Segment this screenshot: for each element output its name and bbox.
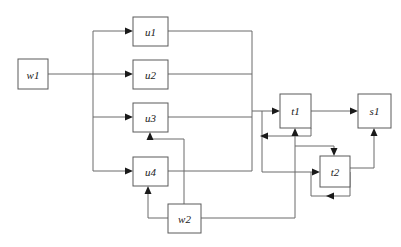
node-t1[interactable]: t1 <box>280 94 311 128</box>
edge-w2-t1 <box>201 132 295 218</box>
node-u1-label: u1 <box>145 26 156 38</box>
arrowhead-u3-in-bottom <box>147 132 154 140</box>
edge-layer <box>48 28 378 219</box>
node-u1[interactable]: u1 <box>133 17 168 46</box>
node-u3-label: u3 <box>145 112 157 124</box>
edge-w2-t2 <box>295 146 334 152</box>
node-t2[interactable]: t2 <box>320 156 350 187</box>
node-s1-label: s1 <box>370 105 380 117</box>
arrowhead-s1-in-bottom <box>371 128 378 136</box>
arrowhead-u1-in <box>125 28 133 35</box>
edge-t1-self-loop <box>264 128 311 136</box>
node-w2-label: w2 <box>178 213 191 225</box>
arrowhead-t2-loop <box>326 193 334 200</box>
diagram-canvas: w1 u1 u2 u3 u4 w2 <box>0 0 401 247</box>
arrowhead-s1-in-left <box>350 108 358 115</box>
node-layer: w1 u1 u2 u3 u4 w2 <box>18 17 391 233</box>
arrowhead-u2-in <box>125 71 133 78</box>
node-u2[interactable]: u2 <box>133 60 168 89</box>
arrowhead-t2-in-left <box>312 169 320 176</box>
node-w2[interactable]: w2 <box>168 204 201 233</box>
node-t2-label: t2 <box>331 166 340 178</box>
node-u4[interactable]: u4 <box>133 157 168 186</box>
arrowhead-u3-in <box>125 114 133 121</box>
arrowhead-t1-in-bottom <box>292 128 299 136</box>
arrowhead-t1-loop <box>260 133 268 140</box>
edge-w2-u4 <box>148 190 168 218</box>
node-s1[interactable]: s1 <box>358 94 391 128</box>
node-w1[interactable]: w1 <box>18 59 48 89</box>
diagram-container: w1 u1 u2 u3 u4 w2 <box>0 0 401 247</box>
edge-t2-s1 <box>350 132 374 168</box>
arrowhead-u4-in <box>125 168 133 175</box>
node-t1-label: t1 <box>291 105 300 117</box>
node-u4-label: u4 <box>145 166 157 178</box>
node-u2-label: u2 <box>145 69 157 81</box>
node-w1-label: w1 <box>27 69 40 81</box>
arrowhead-t2-in-top <box>331 148 338 156</box>
node-u3[interactable]: u3 <box>133 103 168 132</box>
arrowhead-t1-in <box>272 108 280 115</box>
arrowhead-u4-in-bottom <box>145 186 152 194</box>
